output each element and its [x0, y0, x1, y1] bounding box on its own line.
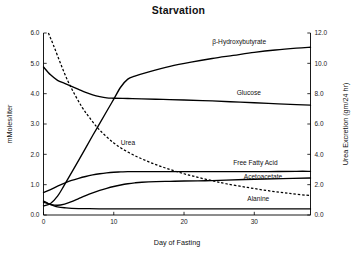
- series-label-glucose: Glucose: [237, 89, 262, 96]
- x-tick-label: 10: [110, 218, 118, 225]
- series-label-urea: Urea: [121, 139, 136, 146]
- y-tick-label-right: 10.0: [315, 60, 328, 67]
- y-tick-label-right: 2.0: [315, 181, 324, 188]
- y-tick-label-left: 5.0: [30, 60, 39, 67]
- series-curve-alanine: [44, 201, 311, 209]
- y-tick-label-left: 1.0: [30, 181, 39, 188]
- series-label-alanine: Alanine: [247, 195, 269, 202]
- series-label-free-fatty-acid: Free Fatty Acid: [233, 159, 278, 167]
- y-tick-label-right: 6.0: [315, 120, 324, 127]
- series-curve-acetoacetate: [44, 178, 311, 205]
- starvation-line-chart: 0.01.02.03.04.05.06.0 0.02.04.06.08.010.…: [0, 0, 357, 256]
- y-axis-left-title: mMoles/liter: [5, 104, 14, 143]
- x-tick-label: 0: [42, 218, 46, 225]
- y-axis-left-ticks: 0.01.02.03.04.05.06.0: [30, 29, 46, 218]
- series-labels: β-HydroxybutyrateGlucoseUreaFree Fatty A…: [121, 38, 283, 202]
- series-curve-glucose: [44, 67, 311, 105]
- y-tick-label-left: 6.0: [30, 29, 39, 36]
- y-tick-label-left: 4.0: [30, 90, 39, 97]
- data-curves: [44, 33, 311, 209]
- chart-figure: Starvation 0.01.02.03.04.05.06.0 0.02.04…: [0, 0, 357, 256]
- y-tick-label-left: 3.0: [30, 120, 39, 127]
- x-tick-label: 20: [180, 218, 188, 225]
- x-axis-title: Day of Fasting: [154, 238, 200, 247]
- y-tick-label-left: 0.0: [30, 211, 39, 218]
- series-label-hydroxybutyrate: β-Hydroxybutyrate: [212, 38, 266, 46]
- y-axis-right-title: Urea Excretion (gm/24 hr): [341, 83, 350, 166]
- x-axis-ticks: 0102030: [42, 212, 259, 225]
- x-tick-label: 30: [251, 218, 259, 225]
- y-tick-label-left: 2.0: [30, 151, 39, 158]
- y-tick-label-right: 12.0: [315, 29, 328, 36]
- y-tick-label-right: 0.0: [315, 211, 324, 218]
- y-tick-label-right: 4.0: [315, 151, 324, 158]
- axis-frame: [44, 33, 311, 215]
- series-label-acetoacetate: Acetoacetate: [244, 173, 283, 180]
- series-curve-hydroxybutyrate: [44, 47, 311, 206]
- y-tick-label-right: 8.0: [315, 90, 324, 97]
